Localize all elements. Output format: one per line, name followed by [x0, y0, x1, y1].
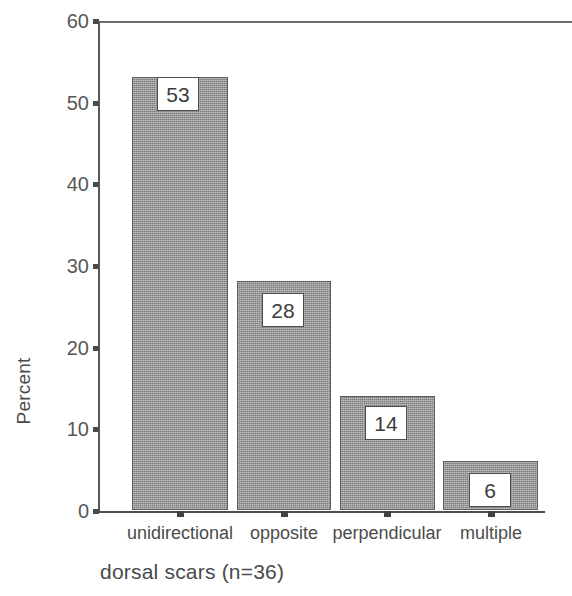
y-tick-mark: [93, 427, 99, 432]
bar-chart: Percent 0 10 20 30 40 50: [0, 0, 572, 596]
chart-caption: dorsal scars (n=36): [100, 560, 284, 584]
bar-value-label-multiple: 6: [469, 473, 511, 507]
y-tick-mark: [93, 264, 99, 269]
x-tick-mark-perpendicular: [384, 511, 391, 517]
y-tick-mark: [93, 19, 99, 24]
x-axis-line: [98, 511, 545, 513]
bar-unidirectional: [132, 77, 228, 510]
y-tick-mark: [93, 346, 99, 351]
bar-value-label-unidirectional: 53: [157, 77, 199, 111]
y-tick-label: 40: [67, 174, 89, 194]
y-tick-label: 50: [67, 93, 89, 113]
plot-top-border: [98, 21, 572, 23]
y-axis-title: Percent: [13, 331, 35, 451]
bar-value-label-perpendicular: 14: [365, 406, 407, 440]
y-tick-mark: [93, 101, 99, 106]
y-tick-label: 20: [67, 338, 89, 358]
y-tick-mark: [93, 509, 99, 514]
plot-area: 0 10 20 30 40 50 60 5: [98, 21, 572, 512]
y-tick-mark: [93, 182, 99, 187]
x-axis-label-multiple: multiple: [460, 524, 522, 542]
y-tick-label: 10: [67, 419, 89, 439]
x-axis-label-unidirectional: unidirectional: [127, 524, 233, 542]
y-tick-label: 0: [78, 501, 89, 521]
x-tick-mark-unidirectional: [177, 511, 184, 517]
bar-value-label-opposite: 28: [262, 293, 304, 327]
y-tick-label: 60: [67, 11, 89, 31]
x-tick-mark-opposite: [281, 511, 288, 517]
x-axis-label-perpendicular: perpendicular: [332, 524, 441, 542]
x-axis-label-opposite: opposite: [250, 524, 318, 542]
x-tick-mark-multiple: [488, 511, 495, 517]
y-tick-label: 30: [67, 256, 89, 276]
